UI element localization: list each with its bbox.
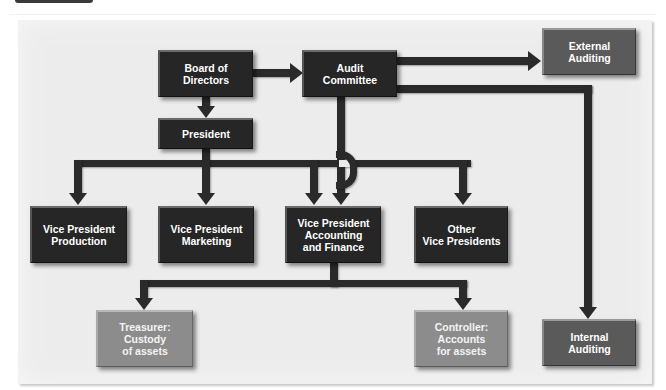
arrowhead-vp-accounting-audit: [332, 193, 350, 205]
finance-bus: [140, 280, 467, 287]
drop-treasurer: [140, 280, 148, 299]
node-board-of-directors: Board of Directors: [158, 50, 253, 97]
node-external-auditing: External Auditing: [542, 28, 636, 75]
drop-other-vps: [459, 160, 467, 193]
arrowhead-vp-marketing: [197, 193, 215, 205]
drop-controller: [459, 280, 467, 299]
president-bus: [74, 160, 471, 167]
header-rule: [10, 14, 656, 15]
header-tab: [15, 0, 93, 3]
connector-board-to-audit: [253, 69, 291, 77]
arrowhead-vp-production: [69, 193, 87, 205]
arrowhead-treasurer: [135, 298, 153, 310]
arrowhead-president: [197, 106, 215, 118]
node-vp-production: Vice President Production: [30, 206, 127, 263]
arrowhead-internal: [579, 307, 597, 319]
node-audit-committee: Audit Committee: [302, 50, 397, 97]
arrowhead-external: [528, 51, 541, 71]
connector-audit-to-external: [397, 57, 529, 65]
node-vp-accounting-finance: Vice President Accounting and Finance: [285, 206, 381, 263]
arrowhead-other-vps: [454, 193, 472, 205]
node-treasurer: Treasurer: Custody of assets: [96, 310, 193, 367]
arrowhead-controller: [454, 298, 472, 310]
drop-vp-production: [74, 160, 82, 193]
node-vp-marketing: Vice President Marketing: [158, 206, 254, 263]
connector-audit-to-internal-h: [397, 85, 592, 93]
arrowhead-vp-accounting: [305, 193, 323, 205]
connector-audit-to-internal-v: [584, 85, 592, 308]
drop-vp-accounting: [310, 160, 318, 193]
node-controller: Controller: Accounts for assets: [414, 310, 508, 367]
node-internal-auditing: Internal Auditing: [542, 319, 636, 366]
node-other-vice-presidents: Other Vice Presidents: [414, 206, 508, 263]
drop-vp-marketing: [202, 160, 210, 193]
node-president: President: [158, 118, 253, 149]
